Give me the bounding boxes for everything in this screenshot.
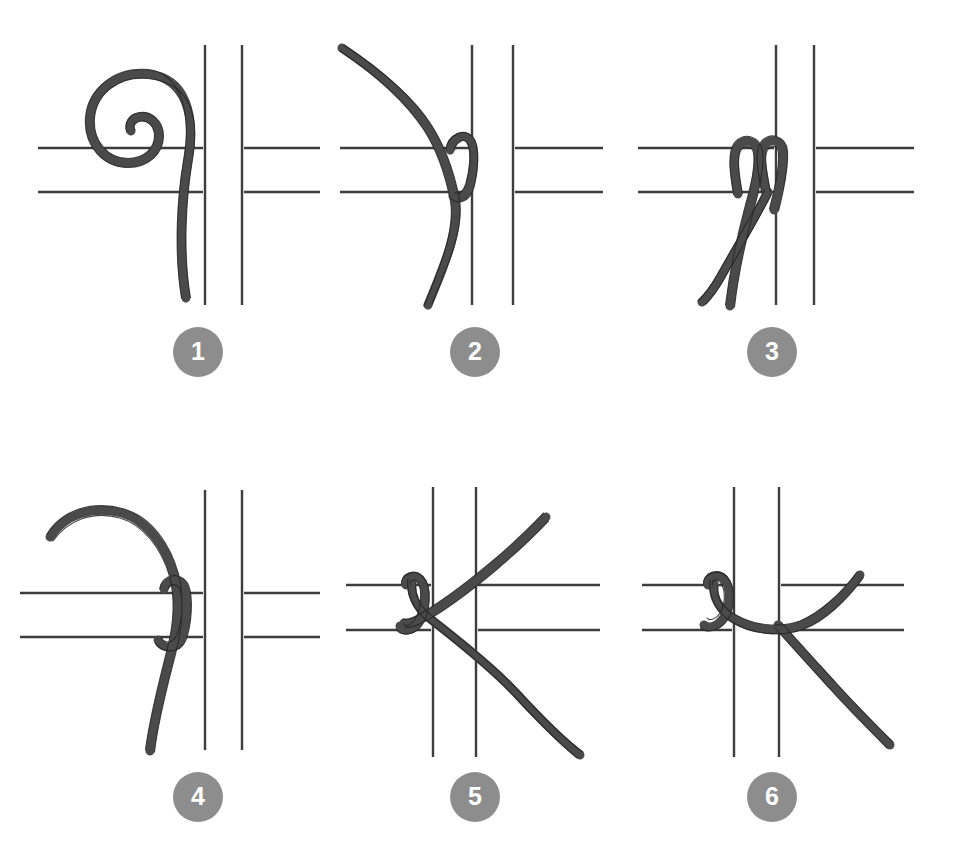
instruction-sheet: 1 2 (0, 0, 954, 867)
cord-outline-tail-right (781, 622, 893, 742)
cord-outline-outer (85, 69, 186, 298)
cord-path-coiled (90, 74, 191, 298)
grid-lines-5 (346, 487, 600, 757)
step-1-illustration (20, 20, 338, 453)
step-badge-5-label: 5 (468, 784, 482, 809)
cord-5-outline (396, 513, 583, 758)
step-badge-4-label: 4 (191, 784, 205, 809)
step-badge-4: 4 (173, 772, 223, 822)
cord-path-working-end (342, 48, 456, 305)
step-badge-5: 5 (450, 772, 500, 822)
cord-1 (90, 74, 191, 298)
step-badge-2-label: 2 (468, 339, 482, 364)
cord-path-descending-tail (778, 625, 890, 745)
cord-3 (702, 141, 783, 306)
cord-6 (704, 575, 890, 745)
step-2-illustration (318, 20, 636, 453)
cord-path-arc-to-knot (50, 510, 178, 751)
step-badge-1: 1 (173, 327, 223, 377)
step-panel-5: 5 (318, 465, 636, 867)
cord-4 (50, 510, 187, 751)
step-panel-3: 3 (616, 20, 934, 453)
step-badge-2: 2 (450, 327, 500, 377)
step-panel-2: 2 (318, 20, 636, 453)
grid-lines-4 (20, 490, 320, 750)
cord-5 (400, 517, 580, 755)
grid-lines-3 (638, 45, 914, 305)
cord-path-cinched-bight (714, 575, 860, 630)
step-badge-3-label: 3 (765, 339, 779, 364)
step-badge-3: 3 (747, 327, 797, 377)
step-3-illustration (616, 20, 934, 453)
step-panel-6: 6 (616, 465, 934, 867)
step-badge-6: 6 (747, 772, 797, 822)
step-panel-4: 4 (20, 465, 338, 867)
step-panel-1: 1 (20, 20, 338, 453)
cord-2-outline (340, 45, 478, 306)
step-badge-1-label: 1 (191, 339, 205, 364)
cord-4-outline (47, 506, 191, 752)
step-badge-6-label: 6 (765, 784, 779, 809)
